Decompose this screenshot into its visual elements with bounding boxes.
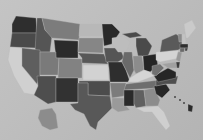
state-ct <box>180 48 185 52</box>
us-choropleth-map <box>0 0 203 140</box>
state-sd <box>78 38 103 53</box>
state-fl <box>136 106 170 130</box>
state-co <box>58 58 82 78</box>
state-me <box>184 20 196 38</box>
state-nm <box>56 78 78 102</box>
state-nd <box>79 24 102 36</box>
state-az <box>34 76 56 104</box>
state-ms <box>124 90 134 106</box>
state-ks <box>83 65 109 80</box>
state-nh <box>182 34 186 44</box>
state-ma <box>180 44 188 48</box>
state-wy <box>54 40 78 58</box>
map-container <box>0 0 203 140</box>
state-hi-1 <box>174 96 176 98</box>
state-ri <box>185 48 188 51</box>
state-ar <box>110 83 126 98</box>
state-md <box>162 62 178 68</box>
state-ak <box>38 108 58 130</box>
state-ut <box>40 52 59 75</box>
state-hi-3 <box>183 102 185 104</box>
state-wa <box>12 16 37 33</box>
state-or <box>10 33 37 48</box>
state-mi <box>136 38 152 56</box>
state-ne <box>78 53 108 64</box>
state-hi-4 <box>188 104 193 112</box>
state-hi-2 <box>179 99 181 101</box>
